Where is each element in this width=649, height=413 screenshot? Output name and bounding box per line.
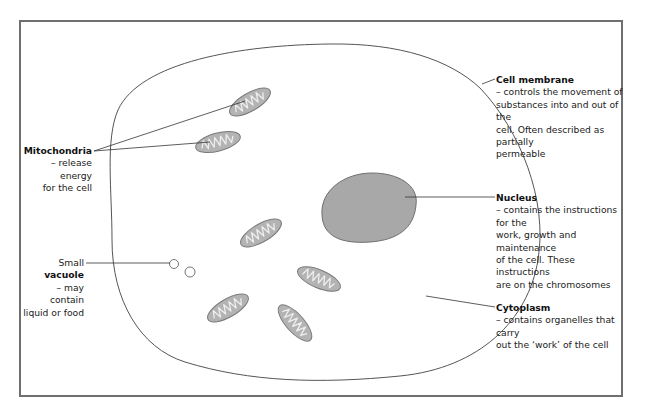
vacuole-desc-1: – may contain bbox=[50, 282, 84, 305]
cell-membrane-leader-line bbox=[482, 79, 495, 84]
mitochondrion bbox=[273, 300, 317, 346]
cell-membrane-title: Cell membrane bbox=[496, 74, 574, 85]
mitochondrion bbox=[294, 262, 343, 297]
cell-membrane-desc-1: – controls the movement of bbox=[496, 86, 623, 97]
vacuole-label: Small vacuole – may contain liquid or fo… bbox=[20, 257, 84, 319]
mitochondria-desc-2: for the cell bbox=[43, 182, 92, 193]
mitochondria-leader-line bbox=[94, 142, 210, 151]
cytoplasm-label: Cytoplasm – contains organelles that car… bbox=[496, 302, 626, 352]
nucleus-title: Nucleus bbox=[496, 192, 537, 203]
mitochondria-desc-1: – release energy bbox=[51, 157, 92, 180]
vacuole-title: vacuole bbox=[44, 269, 84, 280]
cell-membrane-desc-4: permeable bbox=[496, 148, 545, 159]
mitochondria-label: Mitochondria – release energy for the ce… bbox=[20, 145, 92, 195]
cytoplasm-desc-2: out the ‘work’ of the cell bbox=[496, 339, 609, 350]
mitochondrion bbox=[237, 214, 286, 253]
nucleus-desc-2: work, growth and maintenance bbox=[496, 229, 576, 252]
vacuole bbox=[185, 267, 195, 277]
cell-membrane-desc-3: cell. Often described as partially bbox=[496, 124, 604, 147]
vacuole-prefix: Small bbox=[58, 257, 84, 268]
mitochondrion bbox=[204, 289, 253, 328]
cell-membrane-desc-2: substances into and out of the bbox=[496, 99, 618, 122]
nucleus-desc-3: of the cell. These instructions bbox=[496, 254, 575, 277]
vacuole bbox=[170, 260, 179, 269]
nucleus bbox=[322, 173, 416, 242]
mitochondrion bbox=[226, 83, 275, 122]
cytoplasm-leader-line bbox=[426, 296, 495, 307]
cytoplasm-title: Cytoplasm bbox=[496, 302, 550, 313]
cell-membrane-label: Cell membrane – controls the movement of… bbox=[496, 74, 626, 161]
nucleus-desc-4: are on the chromosomes bbox=[496, 279, 611, 290]
nucleus-desc-1: – contains the instructions for the bbox=[496, 204, 617, 227]
cytoplasm-desc-1: – contains organelles that carry bbox=[496, 314, 615, 337]
mitochondria-title: Mitochondria bbox=[24, 145, 92, 156]
vacuole-desc-2: liquid or food bbox=[23, 307, 84, 318]
mitochondrion bbox=[193, 127, 242, 156]
nucleus-label: Nucleus – contains the instructions for … bbox=[496, 192, 626, 291]
